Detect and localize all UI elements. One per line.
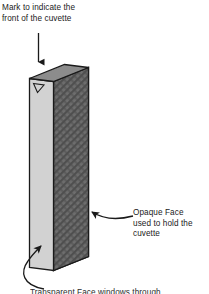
side-face-opaque xyxy=(54,68,89,271)
arrow-curved-to-opaque-face xyxy=(92,212,133,218)
front-face-clear xyxy=(30,79,54,271)
cuvette-diagram xyxy=(0,0,209,294)
bottom-annotation-label: Transparent Face windows through xyxy=(30,288,205,294)
top-annotation-label: Mark to indicate the front of the cuvett… xyxy=(2,3,110,24)
right-annotation-label: Opaque Face used to hold the cuvette xyxy=(133,208,209,240)
